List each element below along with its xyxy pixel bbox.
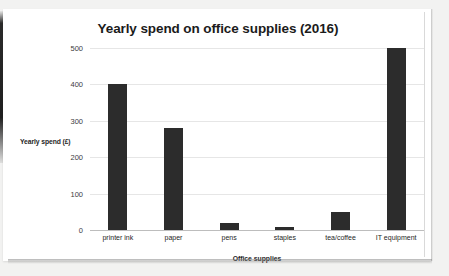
x-tick-label: paper: [165, 234, 183, 241]
bar[interactable]: [220, 223, 239, 230]
chart-title: Yearly spend on office supplies (2016): [12, 21, 424, 36]
y-tick-label: 400: [70, 80, 83, 89]
page-edge-artifact-left: [0, 11, 3, 163]
bar-group: printer ink: [90, 48, 146, 230]
bar[interactable]: [387, 48, 406, 230]
page-edge-artifact-right: [431, 9, 433, 261]
y-tick-label: 500: [70, 44, 83, 53]
x-tick-label: IT equipment: [376, 234, 417, 241]
y-tick-label: 200: [70, 153, 83, 162]
bar[interactable]: [331, 212, 350, 230]
bar[interactable]: [275, 227, 294, 230]
x-tick-label: staples: [274, 234, 296, 241]
x-tick-label: printer ink: [102, 234, 133, 241]
x-tick-label: pens: [222, 234, 237, 241]
bar-group: tea/coffee: [313, 48, 369, 230]
chart-container: Yearly spend on office supplies (2016) Y…: [12, 12, 425, 257]
plot-area: 0100200300400500 printer inkpaperpenssta…: [90, 48, 424, 230]
bar-group: staples: [257, 48, 313, 230]
bar-series: printer inkpaperpensstaplestea/coffeeIT …: [90, 48, 424, 230]
page-edge-shadow-bottom: [8, 259, 432, 264]
bar-group: IT equipment: [368, 48, 424, 230]
y-axis-title: Yearly spend (£): [20, 138, 92, 145]
y-tick-label: 300: [70, 116, 83, 125]
y-tick-label: 100: [70, 189, 83, 198]
scanned-page-background: Yearly spend on office supplies (2016) Y…: [0, 0, 449, 276]
gridline-0: [90, 230, 424, 231]
bar[interactable]: [164, 128, 183, 230]
bar-group: paper: [146, 48, 202, 230]
bar[interactable]: [108, 84, 127, 230]
y-tick-label: 0: [79, 226, 83, 235]
x-tick-label: tea/coffee: [325, 234, 356, 241]
bar-group: pens: [201, 48, 257, 230]
